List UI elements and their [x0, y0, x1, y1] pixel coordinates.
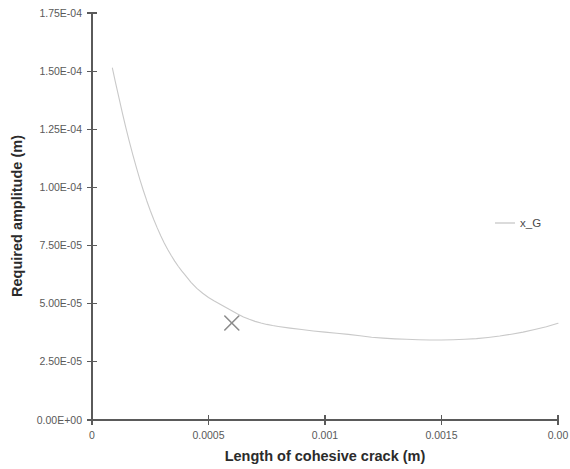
y-axis-tick-label: 1.50E-04 [39, 65, 82, 77]
x-axis-title: Length of cohesive crack (m) [225, 448, 426, 464]
y-axis-tick-label: 2.50E-05 [39, 355, 82, 367]
plot-background [0, 0, 570, 469]
y-axis-title-group: Required amplitude (m) [9, 135, 25, 297]
x-axis-tick-label: 0.0015 [425, 429, 457, 441]
y-axis-tick-label: 5.00E-05 [39, 297, 82, 309]
legend-label: x_G [520, 217, 541, 229]
y-axis-tick-label: 7.50E-05 [39, 239, 82, 251]
chart-container: 0.00E+002.50E-055.00E-057.50E-051.00E-04… [0, 0, 570, 469]
y-axis-tick-label: 0.00E+00 [37, 414, 82, 426]
y-axis-title: Required amplitude (m) [9, 135, 25, 297]
required-amplitude-vs-crack-length-chart: 0.00E+002.50E-055.00E-057.50E-051.00E-04… [0, 0, 570, 469]
x-axis-title-group: Length of cohesive crack (m) [225, 448, 426, 464]
y-axis-tick-label: 1.75E-04 [39, 7, 82, 19]
x-axis-tick-label: 0.0005 [192, 429, 224, 441]
y-axis-tick-label: 1.25E-04 [39, 123, 82, 135]
y-axis-tick-label: 1.00E-04 [39, 181, 82, 193]
x-axis-tick-label: 0.001 [312, 429, 338, 441]
x-axis-tick-label: 0.00 [548, 429, 569, 441]
x-axis-tick-label: 0 [89, 429, 95, 441]
